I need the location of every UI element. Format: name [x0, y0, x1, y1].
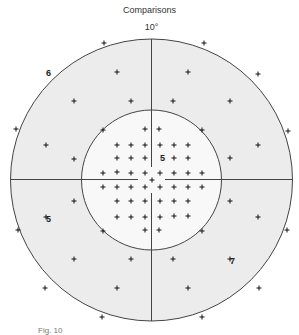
- quadrant-label: 5: [160, 153, 165, 163]
- quadrant-label: 5: [46, 214, 51, 224]
- test-point-cross-icon: [100, 315, 105, 320]
- test-point-cross-icon: [43, 286, 48, 291]
- test-point-cross-icon: [14, 127, 19, 132]
- test-point-cross-icon: [285, 228, 290, 233]
- test-point-cross-icon: [286, 129, 291, 134]
- quadrant-label: 7: [230, 256, 235, 266]
- test-point-cross-icon: [202, 41, 207, 46]
- test-point-cross-icon: [200, 315, 205, 320]
- test-point-cross-icon: [256, 72, 261, 77]
- test-point-cross-icon: [102, 41, 107, 46]
- test-point-cross-icon: [257, 286, 262, 291]
- quadrant-label: 6: [46, 68, 51, 78]
- figure-caption: Fig. 10: [38, 326, 62, 335]
